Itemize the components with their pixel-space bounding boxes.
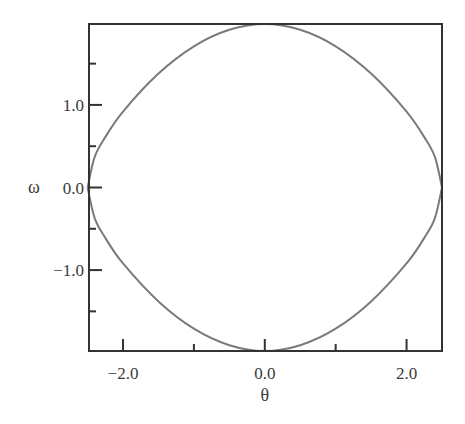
phase-plot: −2.00.02.0 1.00.0−1.0 θ ω: [0, 0, 465, 424]
orbit-curves: [88, 24, 442, 351]
x-tick-label: −2.0: [108, 364, 139, 383]
y-axis-label: ω: [28, 177, 40, 197]
orbit-branch-0: [88, 24, 442, 188]
y-tick-label: 1.0: [63, 96, 84, 115]
plot-frame: [89, 24, 442, 351]
y-tick-label: −1.0: [53, 261, 84, 280]
y-axis-ticks: 1.00.0−1.0: [53, 64, 102, 312]
x-tick-label: 0.0: [254, 364, 275, 383]
x-tick-label: 2.0: [396, 364, 417, 383]
orbit-branch-1: [88, 188, 442, 352]
x-axis-label: θ: [260, 385, 269, 405]
x-axis-ticks: −2.00.02.0: [108, 339, 418, 383]
y-tick-label: 0.0: [63, 179, 84, 198]
